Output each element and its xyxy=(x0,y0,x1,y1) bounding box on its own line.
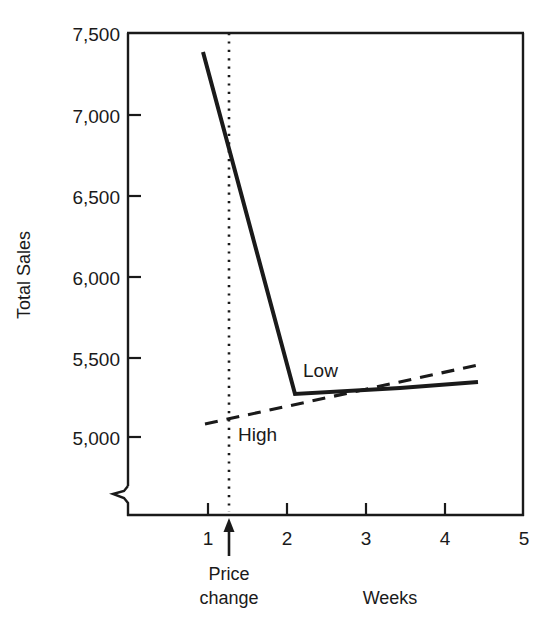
x-axis-title: Weeks xyxy=(363,588,418,608)
x-axis-ticks xyxy=(208,503,445,515)
series-label-high: High xyxy=(238,424,277,445)
chart-canvas: 7,500 7,000 6,500 6,000 5,500 5,000 Tota… xyxy=(0,0,554,628)
x-tick-label-1: 1 xyxy=(203,528,214,549)
x-tick-label-3: 3 xyxy=(361,528,372,549)
y-axis-title: Total Sales xyxy=(14,231,34,319)
y-tick-label-7000: 7,000 xyxy=(72,106,120,127)
series-high-line xyxy=(205,365,478,424)
y-tick-label-5000: 5,000 xyxy=(72,428,120,449)
x-tick-label-5: 5 xyxy=(519,528,530,549)
y-tick-label-6000: 6,000 xyxy=(72,268,120,289)
price-change-annotation: Price change xyxy=(199,33,258,608)
sales-line-chart: 7,500 7,000 6,500 6,000 5,500 5,000 Tota… xyxy=(0,0,554,628)
plot-frame xyxy=(113,33,524,516)
y-tick-label-7500: 7,500 xyxy=(72,24,120,45)
price-change-label-line1: Price xyxy=(208,564,249,584)
y-axis-break-symbol xyxy=(113,486,128,516)
y-tick-label-5500: 5,500 xyxy=(72,349,120,370)
series-high-path xyxy=(205,365,478,424)
series-low-line xyxy=(203,52,478,394)
price-change-arrow-head xyxy=(224,518,235,532)
x-tick-label-4: 4 xyxy=(440,528,451,549)
y-tick-label-6500: 6,500 xyxy=(72,187,120,208)
series-low-path xyxy=(203,52,478,394)
y-axis-tick-labels: 7,500 7,000 6,500 6,000 5,500 5,000 xyxy=(72,24,120,449)
series-label-low: Low xyxy=(303,360,338,381)
price-change-label-line2: change xyxy=(199,588,258,608)
price-change-arrow-icon xyxy=(224,518,235,556)
y-axis-ticks xyxy=(128,115,141,437)
x-tick-label-2: 2 xyxy=(282,528,293,549)
x-axis-tick-labels: 1 2 3 4 5 xyxy=(203,528,530,549)
